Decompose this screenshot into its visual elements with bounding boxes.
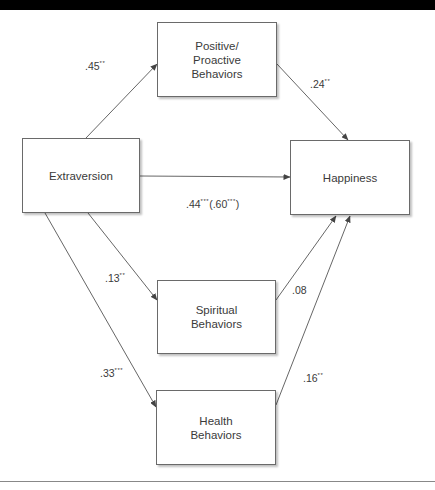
- coef-health-happiness: .16**: [303, 372, 323, 384]
- node-happiness: Happiness: [290, 140, 410, 215]
- node-spiritual-behaviors: Spiritual Behaviors: [157, 280, 276, 354]
- node-spiritual-label: Spiritual Behaviors: [191, 303, 242, 331]
- arrow-extraversion-to-positive: [86, 64, 157, 138]
- arrow-extraversion-to-happiness: [140, 176, 290, 177]
- node-health-behaviors: Health Behaviors: [156, 390, 276, 465]
- node-happiness-label: Happiness: [323, 171, 377, 185]
- coef-extraversion-spiritual: .13**: [105, 272, 125, 284]
- node-health-label: Health Behaviors: [190, 414, 241, 442]
- node-extraversion-label: Extraversion: [49, 169, 113, 183]
- arrow-extraversion-to-spiritual: [88, 213, 157, 300]
- coef-extraversion-happiness: .44***(.60***): [186, 198, 239, 210]
- coef-positive-happiness: .24**: [310, 78, 330, 90]
- node-positive-label: Positive/ Proactive Behaviors: [191, 39, 242, 81]
- coef-extraversion-positive: .45**: [85, 60, 105, 72]
- coef-spiritual-happiness: .08: [292, 284, 307, 296]
- arrow-positive-to-happiness: [277, 64, 348, 140]
- coef-extraversion-health: .33***: [100, 367, 123, 379]
- node-positive-proactive-behaviors: Positive/ Proactive Behaviors: [157, 22, 277, 97]
- bottom-divider: [0, 481, 435, 482]
- node-extraversion: Extraversion: [22, 138, 140, 213]
